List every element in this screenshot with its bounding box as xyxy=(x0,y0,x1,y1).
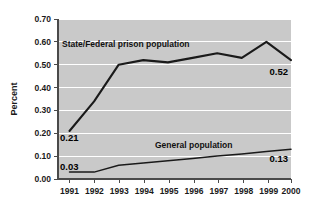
x-axis-label-1993: 1993 xyxy=(110,186,129,196)
x-axis-label-1994: 1994 xyxy=(135,186,154,196)
y-axis-label-0.10: 0.10 xyxy=(34,151,51,161)
y-axis-label-0.70: 0.70 xyxy=(34,14,51,24)
data-label-prison-2000: 0.52 xyxy=(270,66,289,77)
data-label-general-2000: 0.13 xyxy=(270,153,289,164)
y-tick-labels: 0.70 0.60 0.50 0.40 0.30 0.20 0.10 0.00 xyxy=(34,14,51,184)
x-axis-label-1992: 1992 xyxy=(85,186,104,196)
y-axis-label-0.50: 0.50 xyxy=(34,60,51,70)
y-axis-label-0.40: 0.40 xyxy=(34,83,51,93)
series-annotation-general-population: General population xyxy=(155,140,232,150)
y-axis-label-0.20: 0.20 xyxy=(34,128,51,138)
x-tick-labels: 1991 1992 1993 1994 1995 1996 1997 1998 … xyxy=(60,186,301,196)
x-axis-label-1997: 1997 xyxy=(209,186,228,196)
y-axis-label-0.30: 0.30 xyxy=(34,105,51,115)
x-axis-label-1999: 1999 xyxy=(259,186,278,196)
data-label-prison-1991: 0.21 xyxy=(60,132,79,143)
x-axis-label-1996: 1996 xyxy=(185,186,204,196)
line-chart: 0.70 0.60 0.50 0.40 0.30 0.20 0.10 0.00 … xyxy=(0,0,309,208)
x-axis-label-1991: 1991 xyxy=(60,186,79,196)
y-axis-label-0.60: 0.60 xyxy=(34,37,51,47)
y-axis-label-0.00: 0.00 xyxy=(34,174,51,184)
x-tick-marks xyxy=(70,179,292,183)
chart-container: 0.70 0.60 0.50 0.40 0.30 0.20 0.10 0.00 … xyxy=(0,0,309,208)
x-axis-label-2000: 2000 xyxy=(282,186,301,196)
x-axis-label-1995: 1995 xyxy=(160,186,179,196)
data-label-general-1991: 0.03 xyxy=(60,161,79,172)
series-annotation-prison-population: State/Federal prison population xyxy=(62,39,190,49)
y-axis-title: Percent xyxy=(9,82,19,115)
x-axis-label-1998: 1998 xyxy=(234,186,253,196)
